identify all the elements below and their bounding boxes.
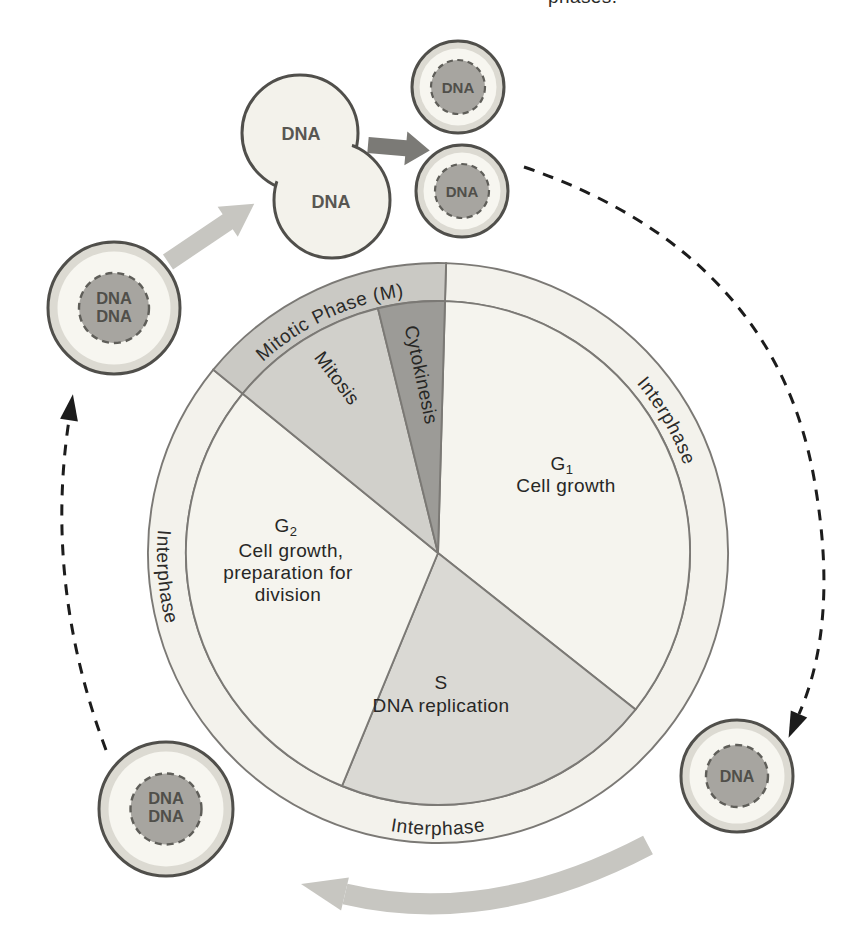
g2-desc-line3: division [255, 584, 322, 605]
cell-s-bottom-left: DNA DNA [99, 742, 233, 876]
s-desc: DNA replication [373, 695, 510, 716]
parent-dna-line2: DNA [96, 307, 132, 325]
arrow-to-dividing-cell-icon [158, 189, 264, 277]
dividing-cell-dna-bottom: DNA [312, 192, 351, 212]
parent-cell-top-left: DNA DNA [48, 242, 180, 374]
g1-cell-dna: DNA [720, 768, 755, 785]
s-symbol: S [434, 672, 447, 693]
cell-cycle-figure: phases. Mitotic Phase (M) Interphase [0, 0, 857, 948]
g2-desc-line1: Cell growth, [238, 540, 343, 561]
cycle-wheel [148, 263, 728, 843]
daughter-upper-dna: DNA [442, 79, 475, 96]
curved-arrow-bottom-icon [301, 845, 648, 911]
g1-desc: Cell growth [516, 475, 615, 496]
s-cell-dna-line2: DNA [148, 807, 184, 825]
parent-dna-line1: DNA [96, 289, 132, 307]
g2-desc-line2: preparation for [223, 562, 353, 583]
daughter-lower-dna: DNA [446, 183, 479, 200]
cell-cycle-diagram: Mitotic Phase (M) Interphase Interphase … [0, 0, 857, 948]
s-cell-dna-line1: DNA [148, 789, 184, 807]
dividing-cell: DNA DNA [242, 75, 390, 258]
dashed-arrow-left-icon [60, 394, 106, 750]
dividing-cell-dna-top: DNA [282, 124, 321, 144]
daughter-cell-upper: DNA [412, 41, 504, 133]
daughter-cell-lower: DNA [416, 145, 508, 237]
cell-g1-right: DNA [681, 720, 793, 832]
